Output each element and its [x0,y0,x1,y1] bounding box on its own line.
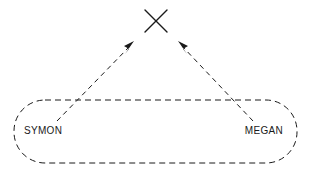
diagram-canvas: SYMON MEGAN [0,0,309,179]
x-marker [145,10,167,32]
arrowhead-symon [124,41,134,54]
arrow-symon-to-x [57,41,134,121]
node-label-symon: SYMON [24,125,62,136]
arrow-megan-to-x [178,41,253,121]
arrowhead-megan [178,41,188,54]
diagram-svg: SYMON MEGAN [0,0,309,179]
node-label-megan: MEGAN [245,125,283,136]
